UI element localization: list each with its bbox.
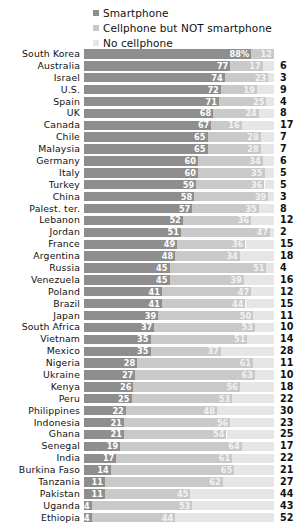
bar-value-smartphone: 67 [198, 121, 209, 130]
bar-value-smartphone: 72 [207, 85, 218, 94]
bar-value-smartphone: 39 [145, 311, 156, 320]
row-country-label: Turkey [0, 180, 84, 190]
bar-segment-smartphone: 35 [84, 335, 151, 344]
chart-row: China58393 [0, 191, 308, 203]
bar-value-smartphone: 68 [200, 109, 211, 118]
row-country-label: Mexico [0, 346, 84, 356]
bar-segment-cellphone: 50 [158, 311, 253, 320]
bar-segment-cellphone: 53 [92, 501, 193, 510]
row-value-no-cellphone: 23 [280, 418, 293, 428]
row-bar-area: 65287 [84, 132, 306, 141]
bar-segment-cellphone: 65 [111, 465, 235, 474]
bar-segment-cellphone: 56 [133, 382, 239, 391]
bar-segment-no-cellphone [263, 61, 274, 70]
bar-value-cellphone: 47 [257, 228, 268, 237]
bar-segment-no-cellphone [255, 323, 274, 332]
row-country-label: Kenya [0, 382, 84, 392]
chart-row: Vietnam355114 [0, 333, 308, 345]
row-country-label: Pakistan [0, 489, 84, 499]
row-country-label: Brazil [0, 299, 84, 309]
bar-value-smartphone: 35 [137, 335, 148, 344]
chart-row: Peru255322 [0, 393, 308, 405]
bar-segment-no-cellphone [253, 358, 274, 367]
row-country-label: Japan [0, 311, 84, 321]
bar-value-cellphone: 56 [226, 382, 237, 391]
chart-row: Chile65287 [0, 131, 308, 143]
bar-value-smartphone: 49 [164, 240, 175, 249]
chart-row: UK68248 [0, 107, 308, 119]
row-value-no-cellphone: 4 [280, 263, 287, 273]
row-value-no-cellphone: 18 [280, 251, 293, 261]
row-bar-area: 65287 [84, 144, 306, 153]
row-bar-area: 414415 [84, 299, 306, 308]
bar-segment-no-cellphone [217, 406, 274, 415]
bar-segment-cellphone: 28 [208, 132, 261, 141]
legend-item-cellphone[interactable]: Cellphone but NOT smartphone [93, 21, 272, 34]
bar-value-smartphone: 25 [118, 394, 129, 403]
bar-value-cellphone: 34 [226, 252, 237, 261]
row-value-no-cellphone: 52 [280, 513, 293, 523]
bar-segment-no-cellphone [268, 192, 274, 201]
bar-segment-smartphone: 11 [84, 489, 105, 498]
bar-value-smartphone: 22 [112, 406, 123, 415]
bar-value-cellphone: 53 [242, 323, 253, 332]
bar-segment-smartphone: 39 [84, 311, 158, 320]
bar-segment-cellphone: 64 [120, 442, 242, 451]
bar-segment-no-cellphone [175, 513, 274, 522]
row-bar-area: 224830 [84, 406, 306, 415]
bar-segment-no-cellphone [240, 382, 274, 391]
bar-segment-cellphone: 63 [135, 370, 255, 379]
bar-value-cellphone: 36 [232, 240, 243, 249]
row-country-label: Russia [0, 263, 84, 273]
row-value-no-cellphone: 22 [280, 394, 293, 404]
bar-value-smartphone: 41 [148, 299, 159, 308]
bar-segment-smartphone: 14 [84, 465, 111, 474]
row-country-label: Tanzania [0, 477, 84, 487]
row-value-no-cellphone: 6 [280, 156, 287, 166]
row-value-no-cellphone: 25 [280, 429, 293, 439]
bar-segment-no-cellphone [246, 240, 275, 249]
bar-segment-no-cellphone [232, 394, 274, 403]
row-bar-area: 375310 [84, 323, 306, 332]
chart-row: U.S.72199 [0, 84, 308, 96]
chart-row: Kenya265618 [0, 381, 308, 393]
bar-segment-no-cellphone [263, 156, 274, 165]
bar-value-smartphone: 65 [194, 145, 205, 154]
bar-segment-no-cellphone [261, 132, 274, 141]
chart-row: Australia77176 [0, 60, 308, 72]
bar-segment-no-cellphone [265, 168, 275, 177]
bar-value-cellphone: 50 [240, 311, 251, 320]
chart-row: Indonesia215623 [0, 417, 308, 429]
bar-segment-no-cellphone [244, 275, 274, 284]
row-value-no-cellphone: 28 [280, 346, 293, 356]
bar-segment-no-cellphone [227, 430, 275, 439]
row-value-no-cellphone: 8 [280, 108, 287, 118]
bar-value-smartphone: 4 [84, 513, 90, 522]
bar-segment-no-cellphone [190, 489, 274, 498]
chart-row: Tanzania116227 [0, 476, 308, 488]
row-value-no-cellphone: 44 [280, 489, 293, 499]
row-country-label: China [0, 192, 84, 202]
bar-value-smartphone: 60 [185, 156, 196, 165]
chart-row: Poland414712 [0, 286, 308, 298]
row-bar-area: 255322 [84, 394, 306, 403]
legend-item-smartphone[interactable]: Smartphone [93, 6, 272, 19]
bar-value-smartphone: 48 [162, 252, 173, 261]
bar-segment-cellphone: 39 [170, 275, 244, 284]
row-bar-area: 60346 [84, 156, 306, 165]
bar-segment-no-cellphone [240, 251, 274, 260]
bar-segment-smartphone: 57 [84, 204, 192, 213]
bar-segment-cellphone: 62 [105, 477, 223, 486]
chart-row: South Africa375310 [0, 321, 308, 333]
row-bar-area: 276310 [84, 370, 306, 379]
row-country-label: Italy [0, 168, 84, 178]
row-bar-area: 45514 [84, 263, 306, 272]
bar-segment-no-cellphone [255, 370, 274, 379]
bar-segment-cellphone: 36 [177, 240, 245, 249]
row-value-no-cellphone: 2 [280, 227, 287, 237]
bar-value-smartphone: 77 [217, 61, 228, 70]
bar-segment-no-cellphone [247, 335, 274, 344]
bar-value-smartphone: 11 [91, 478, 102, 487]
row-bar-area: 114544 [84, 489, 306, 498]
row-bar-area: 353728 [84, 347, 306, 356]
